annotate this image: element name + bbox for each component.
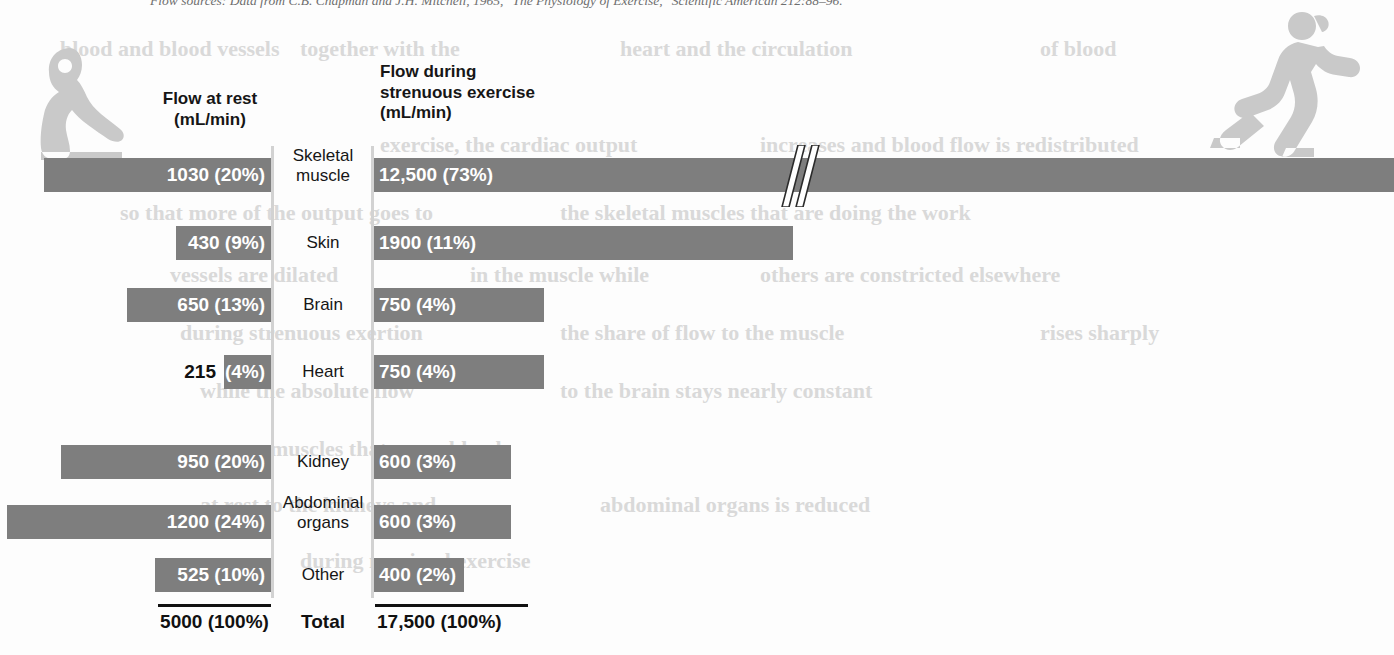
total-value-rest: 5000 (100%) (158, 611, 271, 633)
bar-value-rest: 525 (10%) (155, 558, 265, 592)
bar-value-rest: 950 (20%) (61, 445, 265, 479)
bar-value-exercise: 750 (4%) (379, 288, 456, 322)
showthrough-line: in the muscle while (470, 262, 649, 288)
showthrough-line: of blood (1040, 36, 1116, 62)
bar-value-exercise: 1900 (11%) (379, 226, 476, 260)
showthrough-line: heart and the circulation (620, 36, 852, 62)
bar-value-exercise: 600 (3%) (379, 445, 456, 479)
bar-value-rest: (4%) (224, 355, 265, 389)
showthrough-line: exercise, the cardiac output (380, 132, 637, 158)
bar-value-exercise: 600 (3%) (379, 505, 456, 539)
total-value-exercise: 17,500 (100%) (377, 611, 537, 633)
showthrough-line: others are constricted elsewhere (760, 262, 1060, 288)
chart-page: blood and blood vesselstogether with the… (0, 0, 1394, 655)
organ-label: Skin (278, 233, 368, 253)
showthrough-line: so that more of the output goes to (120, 200, 433, 226)
organ-label: Kidney (278, 452, 368, 472)
showthrough-line: abdominal organs is reduced (600, 492, 870, 518)
bar-value-exercise: 400 (2%) (379, 558, 456, 592)
column-header-flow-during-exercise: Flow during strenuous exercise (mL/min) (380, 62, 640, 124)
organ-label: Other (278, 565, 368, 585)
organ-label: Skeletal muscle (278, 146, 368, 185)
showthrough-line: rises sharply (1040, 320, 1159, 346)
total-row-label: Total (278, 611, 368, 633)
showthrough-line: the share of flow to the muscle (560, 320, 844, 346)
bar-value-rest: 1030 (20%) (44, 158, 265, 192)
organ-label: Heart (278, 362, 368, 382)
axis-rule-left (271, 146, 274, 598)
bar-value-rest: 430 (9%) (176, 226, 265, 260)
showthrough-line: together with the (300, 36, 460, 62)
bar-value-exercise: 12,500 (73%) (379, 158, 493, 192)
total-rule-exercise (375, 604, 528, 607)
organ-label: Brain (278, 295, 368, 315)
bar-exercise (374, 158, 1394, 192)
bar-value-rest: 650 (13%) (127, 288, 265, 322)
showthrough-line: to the brain stays nearly constant (560, 378, 872, 404)
axis-break-double-slash-icon (776, 145, 822, 207)
showthrough-line: the skeletal muscles that are doing the … (560, 200, 971, 226)
column-header-flow-at-rest: Flow at rest (mL/min) (146, 89, 274, 130)
resting-person-silhouette (22, 42, 126, 167)
running-person-silhouette (1206, 8, 1374, 158)
source-note: Flow sources: Data from C.B. Chapman and… (150, 0, 843, 9)
total-rule-rest (158, 604, 271, 607)
showthrough-line: during strenuous exertion (180, 320, 423, 346)
bar-value-rest-outside: 215 (154, 355, 216, 389)
showthrough-line: vessels are dilated (170, 262, 338, 288)
bar-value-exercise: 750 (4%) (379, 355, 456, 389)
organ-label: Abdominal organs (278, 493, 368, 532)
bar-value-rest: 1200 (24%) (7, 505, 265, 539)
